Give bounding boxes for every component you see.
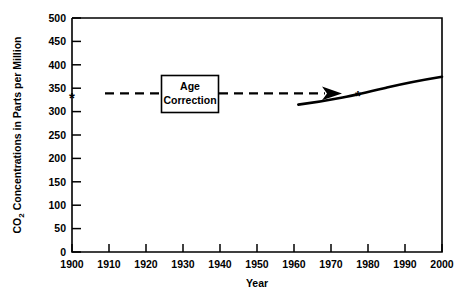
x-tick-label: 1940 xyxy=(208,258,232,270)
x-tick-label: 1980 xyxy=(356,258,380,270)
y-tick-label: 500 xyxy=(48,12,66,24)
y-tick-label: 350 xyxy=(48,82,66,94)
x-tick-label: 1990 xyxy=(393,258,417,270)
x-tick-label: 1910 xyxy=(97,258,121,270)
y-axis-title-prefix: CO xyxy=(11,218,23,234)
x-axis-title: Year xyxy=(246,277,268,289)
age-correction-label-line2: Correction xyxy=(163,94,216,106)
x-tick-label: 1920 xyxy=(134,258,158,270)
y-tick-label: 150 xyxy=(48,176,66,188)
star-marker-left: * xyxy=(69,89,75,106)
star-marker-right: * xyxy=(355,87,361,104)
y-tick-label: 200 xyxy=(48,152,66,164)
y-tick-label: 0 xyxy=(60,246,66,258)
x-tick-label: 1950 xyxy=(245,258,269,270)
x-tick-label: 2000 xyxy=(430,258,454,270)
x-tick-label: 1930 xyxy=(171,258,195,270)
x-tick-label: 1900 xyxy=(60,258,84,270)
x-tick-label: 1960 xyxy=(282,258,306,270)
age-correction-label-line1: Age xyxy=(180,80,200,92)
co2-concentration-chart: 0 50 100 150 200 250 300 350 400 450 500 xyxy=(0,0,475,301)
x-axis-tick-labels: 1900 1910 1920 1930 1940 1950 1960 1970 … xyxy=(60,258,454,270)
y-tick-label: 300 xyxy=(48,105,66,117)
x-tick-label: 1970 xyxy=(319,258,343,270)
y-tick-label: 450 xyxy=(48,35,66,47)
y-tick-label: 50 xyxy=(54,222,66,234)
y-tick-label: 400 xyxy=(48,59,66,71)
y-tick-label: 250 xyxy=(48,129,66,141)
y-axis-title-suffix: Concentrations in Parts per Million xyxy=(11,37,23,214)
y-tick-label: 100 xyxy=(48,199,66,211)
